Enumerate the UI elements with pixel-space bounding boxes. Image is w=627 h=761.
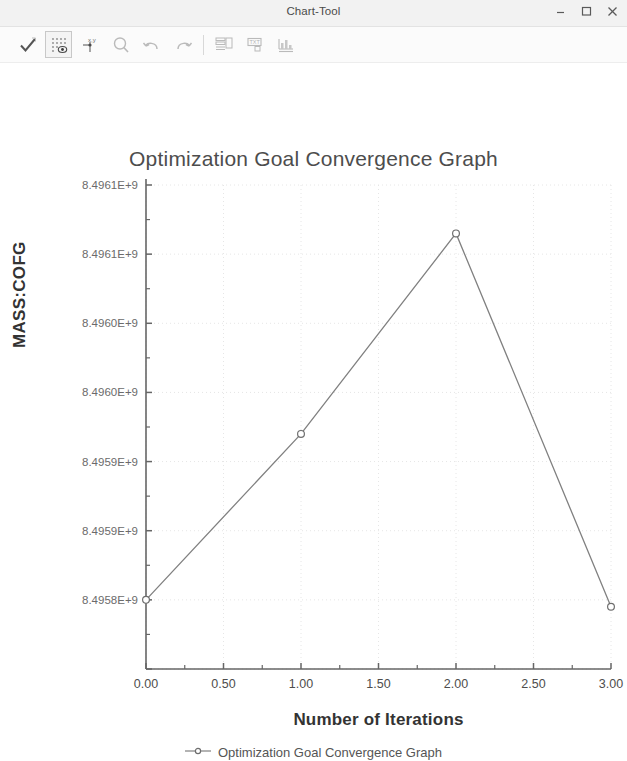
svg-text:8.4959E+9: 8.4959E+9 xyxy=(82,525,138,537)
svg-text:3.00: 3.00 xyxy=(599,677,623,691)
table-layout-button[interactable] xyxy=(210,31,237,58)
svg-text:0.50: 0.50 xyxy=(211,677,235,691)
window-controls xyxy=(554,4,619,18)
redo-button[interactable] xyxy=(169,31,196,58)
axes-xy-button[interactable]: x,y xyxy=(76,31,103,58)
maximize-button[interactable] xyxy=(580,4,593,18)
svg-text:8.4958E+9: 8.4958E+9 xyxy=(82,594,138,606)
svg-text:2.50: 2.50 xyxy=(521,677,545,691)
export-chart-icon xyxy=(276,35,296,55)
window-title: Chart-Tool xyxy=(0,5,627,17)
close-button[interactable] xyxy=(606,4,619,18)
apply-check-button[interactable] xyxy=(14,31,41,58)
checkmark-icon xyxy=(18,35,38,55)
toolbar-separator xyxy=(203,35,204,55)
chart-canvas[interactable]: Optimization Goal Convergence Graph MASS… xyxy=(0,63,627,715)
zoom-button[interactable] xyxy=(107,31,134,58)
axis-lines xyxy=(146,179,611,669)
xy-axes-icon: x,y xyxy=(80,35,100,55)
text-box-icon: TXT xyxy=(245,35,265,55)
toolbar: x,y xyxy=(0,27,627,63)
svg-text:8.4960E+9: 8.4960E+9 xyxy=(82,317,138,329)
svg-text:8.4959E+9: 8.4959E+9 xyxy=(82,456,138,468)
undo-button[interactable] xyxy=(138,31,165,58)
plot-svg: 8.4961E+98.4961E+98.4960E+98.4960E+98.49… xyxy=(0,63,627,715)
gridlines xyxy=(146,185,611,669)
minimize-button[interactable] xyxy=(554,4,567,18)
svg-text:0.00: 0.00 xyxy=(134,677,158,691)
x-tick-labels: 0.000.501.001.502.002.503.00 xyxy=(134,677,623,691)
chart-legend: Optimization Goal Convergence Graph xyxy=(0,743,627,761)
export-chart-button[interactable] xyxy=(272,31,299,58)
svg-text:2.00: 2.00 xyxy=(444,677,468,691)
svg-text:8.4960E+9: 8.4960E+9 xyxy=(82,386,138,398)
svg-text:x,y: x,y xyxy=(88,37,96,43)
grid-dots-icon xyxy=(49,35,69,55)
svg-text:TXT: TXT xyxy=(249,39,260,45)
undo-arrow-icon xyxy=(142,35,162,55)
svg-text:8.4961E+9: 8.4961E+9 xyxy=(82,248,138,260)
title-bar: Chart-Tool xyxy=(0,0,627,27)
y-tick-labels: 8.4961E+98.4961E+98.4960E+98.4960E+98.49… xyxy=(82,179,138,606)
grid-display-button[interactable] xyxy=(45,31,72,58)
table-icon xyxy=(214,35,234,55)
text-annotation-button[interactable]: TXT xyxy=(241,31,268,58)
svg-text:8.4961E+9: 8.4961E+9 xyxy=(82,179,138,191)
magnifier-icon xyxy=(111,35,131,55)
legend-label: Optimization Goal Convergence Graph xyxy=(218,745,442,760)
redo-arrow-icon xyxy=(173,35,193,55)
svg-text:1.00: 1.00 xyxy=(289,677,313,691)
legend-marker-icon xyxy=(185,743,211,761)
svg-text:1.50: 1.50 xyxy=(366,677,390,691)
